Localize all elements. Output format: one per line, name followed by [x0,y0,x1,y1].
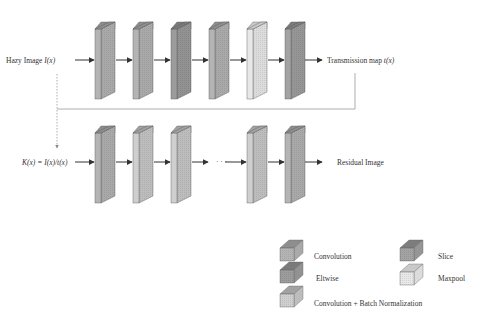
convolution-block [95,22,115,99]
legend-item-slice: Slice [400,240,454,261]
bottom-row-blocks [95,126,305,203]
convolution-legend-icon [280,240,303,261]
hazy-image-label: Hazy Image I(x) [6,56,56,65]
convolution-block [95,126,115,203]
maxpool-legend-icon [400,264,423,285]
legend-item-conv-bn: Convolution + Batch Normalization [280,286,422,308]
conv-bn-block [133,126,153,203]
eltwise-legend-icon [280,262,303,283]
legend-label: Slice [438,252,454,261]
legend-label: Eltwise [316,274,339,283]
ellipsis: · · · [216,157,227,166]
top-row-blocks [95,22,305,99]
legend-item-convolution: Convolution [280,240,352,261]
legend-label: Convolution + Batch Normalization [314,299,422,308]
convolution-block [209,22,229,99]
architecture-diagram: Hazy Image I(x) Transmission map t(x) K(… [0,0,489,333]
top-row: Hazy Image I(x) Transmission map t(x) [6,22,395,99]
legend-label: Maxpool [438,274,465,283]
legend-item-eltwise: Eltwise [280,262,339,283]
k-formula-label: K(x) = I(x)/t(x) [21,158,68,167]
legend-item-maxpool: Maxpool [400,264,465,285]
transmission-map-label: Transmission map t(x) [327,56,395,65]
residual-image-label: Residual Image [337,158,385,167]
bottom-row: K(x) = I(x)/t(x) · · · Residual Image [21,126,385,203]
slice-legend-icon [400,240,423,261]
convolution-block [285,126,305,203]
conv-bn-legend-icon [280,286,303,307]
eltwise-block [171,22,191,99]
conv-bn-block [247,126,267,203]
legend: ConvolutionEltwiseConvolution + Batch No… [280,240,465,308]
maxpool-block [247,22,267,99]
convolution-block [133,22,153,99]
legend-label: Convolution [314,252,352,261]
slice-block [285,22,305,99]
conv-bn-block [171,126,191,203]
